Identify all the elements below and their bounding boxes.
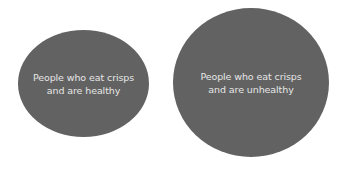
unhealthy-crisp-eaters-label: People who eat crisps and are unhealthy [200,70,301,96]
unhealthy-crisp-eaters-ellipse: People who eat crisps and are unhealthy [173,8,329,157]
healthy-crisp-eaters-ellipse: People who eat crisps and are healthy [18,30,149,137]
label-line: and are healthy [33,84,134,97]
label-line: People who eat crisps [33,71,134,84]
label-line: and are unhealthy [200,83,301,96]
label-line: People who eat crisps [200,70,301,83]
healthy-crisp-eaters-label: People who eat crisps and are healthy [33,71,134,97]
